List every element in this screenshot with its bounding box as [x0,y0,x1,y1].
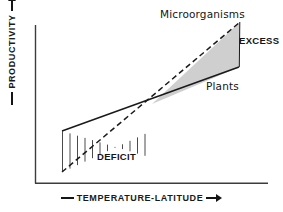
y-axis-trailing-rule [11,0,12,11]
series-label-plants: Plants [206,81,239,92]
y-axis-title: PRODUCTIVITY [7,14,17,88]
arrow-right-icon [216,194,222,202]
plants-line [62,67,239,131]
microorganisms-line [62,22,240,172]
region-label-excess: EXCESS [239,36,279,46]
productivity-temperature-latitude-chart: Microorganisms EXCESS Plants DEFICIT TEM… [0,0,283,212]
arrow-up-icon [8,0,16,1]
chart-plot-area [0,0,283,212]
x-axis-leading-rule [61,197,74,198]
x-axis-title: TEMPERATURE-LATITUDE [77,193,204,203]
series-label-microorganisms: Microorganisms [160,9,245,20]
y-axis-leading-rule [11,92,12,105]
x-axis-title-group: TEMPERATURE-LATITUDE [0,193,283,203]
region-label-deficit: DEFICIT [97,152,136,162]
y-axis-title-group: PRODUCTIVITY [4,0,20,130]
